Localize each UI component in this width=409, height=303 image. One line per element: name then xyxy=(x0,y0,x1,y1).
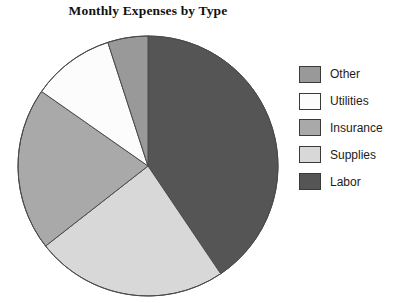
legend-swatch-other xyxy=(299,66,321,83)
chart-legend: OtherUtilitiesInsuranceSuppliesLabor xyxy=(299,61,407,195)
legend-swatch-labor xyxy=(299,173,321,190)
pie-chart-figure: Monthly Expenses by Type OtherUtilitiesI… xyxy=(0,0,409,303)
legend-item-labor[interactable]: Labor xyxy=(299,168,407,195)
legend-swatch-insurance xyxy=(299,119,321,136)
legend-label: Other xyxy=(330,68,360,80)
legend-label: Utilities xyxy=(330,95,369,107)
legend-item-supplies[interactable]: Supplies xyxy=(299,141,407,168)
legend-label: Labor xyxy=(330,176,361,188)
legend-item-other[interactable]: Other xyxy=(299,61,407,88)
legend-label: Insurance xyxy=(330,122,383,134)
legend-swatch-utilities xyxy=(299,93,321,110)
legend-label: Supplies xyxy=(330,149,376,161)
legend-item-insurance[interactable]: Insurance xyxy=(299,115,407,142)
pie-slice-group xyxy=(18,36,278,296)
legend-item-utilities[interactable]: Utilities xyxy=(299,88,407,115)
legend-swatch-supplies xyxy=(299,146,321,163)
